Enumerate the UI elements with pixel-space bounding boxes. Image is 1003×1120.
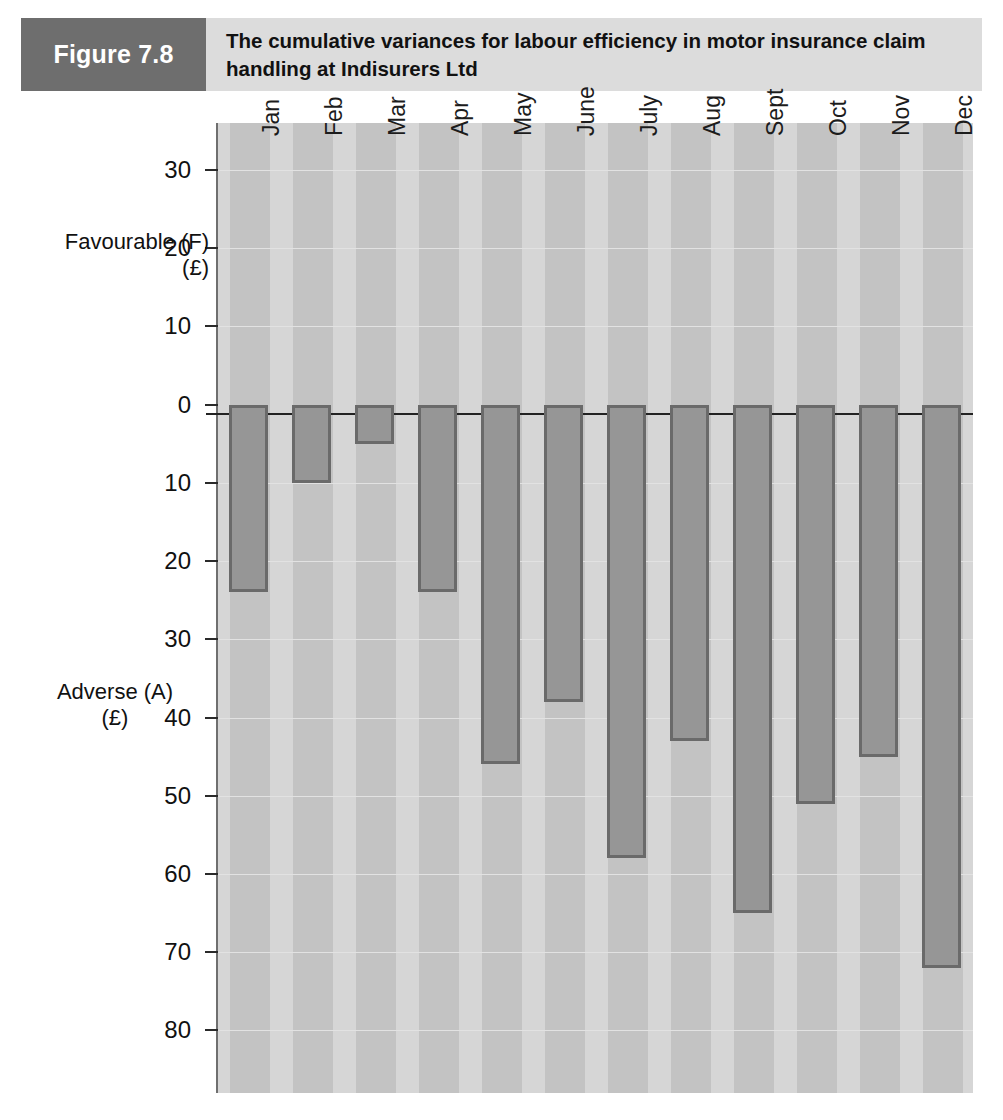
plot-band bbox=[293, 123, 333, 1093]
adverse-axis-label: Adverse (A) (£) bbox=[31, 679, 199, 731]
gridline bbox=[217, 248, 973, 249]
y-tick bbox=[205, 169, 218, 171]
y-tick-label: 50 bbox=[131, 782, 191, 810]
y-tick-label: 0 bbox=[131, 391, 191, 419]
category-label-dec: Dec bbox=[951, 95, 978, 136]
plot-band bbox=[356, 123, 396, 1093]
figure-title: The cumulative variances for labour effi… bbox=[206, 18, 982, 91]
category-label-mar: Mar bbox=[384, 96, 411, 136]
gridline bbox=[217, 952, 973, 953]
y-tick-label: 10 bbox=[131, 469, 191, 497]
y-tick-label: 70 bbox=[131, 938, 191, 966]
category-label-may: May bbox=[510, 93, 537, 136]
bar-may bbox=[481, 405, 520, 765]
figure-number-tag: Figure 7.8 bbox=[21, 18, 206, 91]
bar-jan bbox=[229, 405, 268, 593]
y-tick bbox=[205, 560, 218, 562]
bar-june bbox=[544, 405, 583, 702]
chart-figure: 30201001020304050607080 JanFebMarAprMayJ… bbox=[21, 99, 982, 1102]
y-tick-label: 80 bbox=[131, 1016, 191, 1044]
bar-july bbox=[607, 405, 646, 859]
gridline bbox=[217, 1030, 973, 1031]
y-tick-label: 30 bbox=[131, 625, 191, 653]
category-label-june: June bbox=[573, 86, 600, 136]
bar-nov bbox=[859, 405, 898, 757]
bar-aug bbox=[670, 405, 709, 741]
y-tick bbox=[205, 638, 218, 640]
bar-feb bbox=[292, 405, 331, 483]
bar-apr bbox=[418, 405, 457, 593]
gridline bbox=[217, 874, 973, 875]
gridline bbox=[217, 796, 973, 797]
category-label-oct: Oct bbox=[825, 100, 852, 136]
y-tick bbox=[205, 795, 218, 797]
gridline bbox=[217, 326, 973, 327]
figure-header: Figure 7.8 The cumulative variances for … bbox=[21, 18, 982, 91]
gridline bbox=[217, 170, 973, 171]
y-tick bbox=[205, 1029, 218, 1031]
y-tick bbox=[205, 482, 218, 484]
bar-sept bbox=[733, 405, 772, 913]
bar-dec bbox=[922, 405, 961, 968]
category-label-feb: Feb bbox=[321, 96, 348, 136]
category-label-aug: Aug bbox=[699, 95, 726, 136]
category-label-apr: Apr bbox=[447, 100, 474, 136]
y-axis-spine bbox=[216, 123, 218, 1093]
y-tick-label: 30 bbox=[131, 156, 191, 184]
category-label-jan: Jan bbox=[258, 99, 285, 136]
y-tick bbox=[205, 404, 218, 406]
y-tick-label: 60 bbox=[131, 860, 191, 888]
category-label-july: July bbox=[636, 95, 663, 136]
plot-band bbox=[230, 123, 270, 1093]
y-tick bbox=[205, 951, 218, 953]
y-tick bbox=[205, 717, 218, 719]
bar-mar bbox=[355, 405, 394, 444]
plot-band bbox=[419, 123, 459, 1093]
y-tick-label: 10 bbox=[131, 312, 191, 340]
y-tick bbox=[205, 873, 218, 875]
favourable-axis-label: Favourable (F) (£) bbox=[31, 229, 209, 281]
bar-oct bbox=[796, 405, 835, 804]
y-tick bbox=[205, 325, 218, 327]
y-tick-label: 20 bbox=[131, 547, 191, 575]
category-label-sept: Sept bbox=[762, 89, 789, 136]
category-label-nov: Nov bbox=[888, 95, 915, 136]
